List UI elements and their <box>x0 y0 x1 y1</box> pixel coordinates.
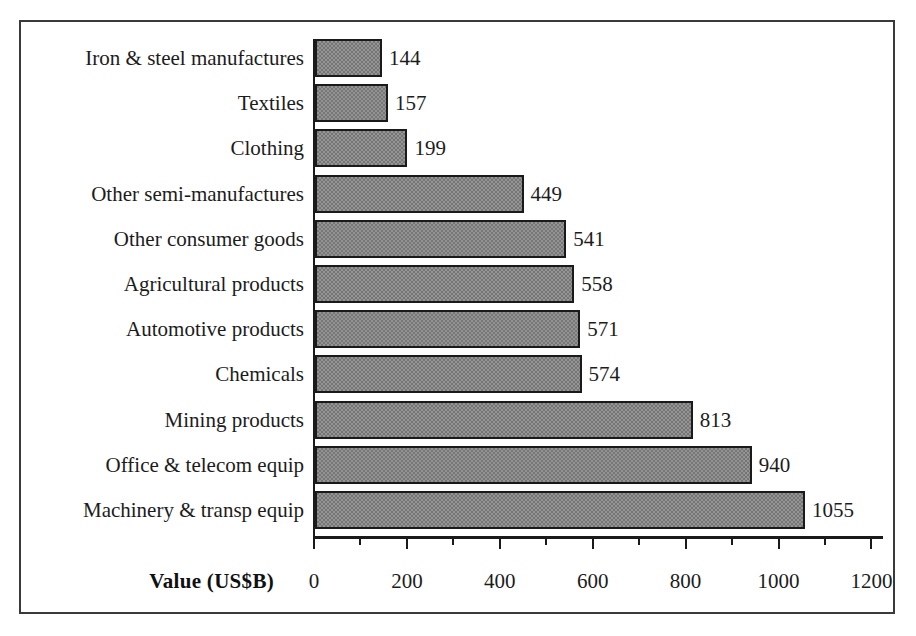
value-axis-major-tick <box>499 536 501 549</box>
bar-row: Agricultural products558 <box>313 265 314 303</box>
bar-value-label: 449 <box>524 175 563 213</box>
value-axis-tick-label: 0 <box>309 569 320 594</box>
bar-rect <box>315 220 566 258</box>
value-axis-tick-label: 1000 <box>758 569 800 594</box>
bar-category-label: Clothing <box>230 129 313 167</box>
chart-frame: Iron & steel manufactures144Textiles157C… <box>19 20 895 614</box>
value-axis-major-tick <box>313 536 315 549</box>
bar-row: Other semi-manufactures449 <box>313 175 314 213</box>
bar-row: Clothing199 <box>313 129 314 167</box>
bar-category-label: Agricultural products <box>124 265 313 303</box>
bar-value-label: 558 <box>574 265 613 303</box>
bar-category-label: Textiles <box>238 84 313 122</box>
value-axis-minor-tick <box>824 536 826 545</box>
bar-row: Office & telecom equip940 <box>313 446 314 484</box>
value-axis-tick-label: 400 <box>484 569 516 594</box>
bar-row: Other consumer goods541 <box>313 220 314 258</box>
bar-value-label: 1055 <box>805 491 854 529</box>
bar-value-label: 541 <box>566 220 605 258</box>
bar-value-label: 157 <box>388 84 427 122</box>
value-axis-major-tick <box>685 536 687 549</box>
value-axis-minor-tick <box>731 536 733 545</box>
clipped-caption-text: — — — — — <box>95 0 187 4</box>
bar-category-label: Other semi-manufactures <box>91 175 313 213</box>
value-axis-line <box>313 536 883 539</box>
bar-category-label: Other consumer goods <box>114 220 313 258</box>
value-axis-tick-label: 1200 <box>850 569 892 594</box>
value-axis-minor-tick <box>452 536 454 545</box>
bar-value-label: 571 <box>580 310 619 348</box>
value-axis-tick-label: 800 <box>670 569 702 594</box>
bar-rect <box>315 401 693 439</box>
bar-row: Mining products813 <box>313 401 314 439</box>
value-axis-title: Value (US$B) <box>149 569 274 594</box>
bar-value-label: 144 <box>382 39 421 77</box>
bar-rect <box>315 491 805 529</box>
bar-rect <box>315 310 580 348</box>
value-axis-minor-tick <box>638 536 640 545</box>
value-axis-major-tick <box>870 536 872 549</box>
bar-row: Textiles157 <box>313 84 314 122</box>
value-axis-minor-tick <box>545 536 547 545</box>
value-axis-major-tick <box>406 536 408 549</box>
value-axis-major-tick <box>592 536 594 549</box>
bar-category-label: Mining products <box>165 401 313 439</box>
bar-rect <box>315 355 582 393</box>
bar-category-label: Iron & steel manufactures <box>85 39 313 77</box>
clipped-caption-strip: — — — — — <box>0 0 916 10</box>
value-axis-major-tick <box>778 536 780 549</box>
bar-value-label: 574 <box>582 355 621 393</box>
bar-category-label: Chemicals <box>215 355 313 393</box>
bar-row: Iron & steel manufactures144 <box>313 39 314 77</box>
bar-chart-plot-area: Iron & steel manufactures144Textiles157C… <box>21 22 893 612</box>
bar-rect <box>315 446 752 484</box>
value-axis-tick-label: 600 <box>577 569 609 594</box>
bar-rect <box>315 175 524 213</box>
bar-value-label: 813 <box>693 401 732 439</box>
bar-rect <box>315 265 574 303</box>
value-axis-minor-tick <box>359 536 361 545</box>
bar-row: Machinery & transp equip1055 <box>313 491 314 529</box>
bar-value-label: 940 <box>752 446 791 484</box>
bar-row: Chemicals574 <box>313 355 314 393</box>
bar-category-label: Machinery & transp equip <box>83 491 313 529</box>
bar-value-label: 199 <box>407 129 446 167</box>
bar-rect <box>315 84 388 122</box>
value-axis-tick-label: 200 <box>391 569 423 594</box>
bar-row: Automotive products571 <box>313 310 314 348</box>
bar-category-label: Automotive products <box>126 310 313 348</box>
bar-rect <box>315 129 407 167</box>
bar-rect <box>315 39 382 77</box>
bar-category-label: Office & telecom equip <box>106 446 313 484</box>
